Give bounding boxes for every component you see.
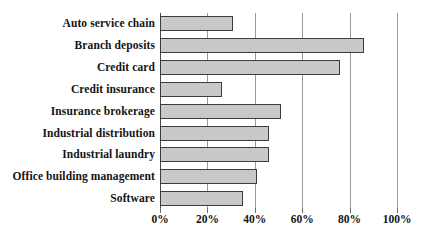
tick-label-80: 80%: [338, 213, 361, 225]
bar-branch-deposits: [160, 38, 364, 53]
bar-industrial-distribution: [160, 126, 269, 141]
category-label: Insurance brokerage: [0, 101, 155, 123]
bar-row: [160, 166, 397, 188]
bar-row: [160, 57, 397, 79]
bar-row: [160, 101, 397, 123]
tick-label-60: 60%: [291, 213, 314, 225]
bar-credit-insurance: [160, 82, 222, 97]
category-label: Branch deposits: [0, 35, 155, 57]
category-label: Credit insurance: [0, 79, 155, 101]
bar-row: [160, 35, 397, 57]
bar-row: [160, 79, 397, 101]
bar-industrial-laundry: [160, 147, 269, 162]
bar-insurance-brokerage: [160, 104, 281, 119]
bar-series: [160, 13, 397, 213]
bar-row: [160, 123, 397, 145]
bar-chart: Auto service chain Branch deposits Credi…: [0, 0, 425, 242]
tick-label-0: 0%: [151, 213, 168, 225]
category-label: Industrial distribution: [0, 123, 155, 145]
category-label: Software: [0, 188, 155, 210]
value-axis: 0% 20% 40% 60% 80% 100%: [160, 213, 397, 231]
bar-software: [160, 191, 243, 206]
tick-label-100: 100%: [383, 213, 412, 225]
tick-label-40: 40%: [243, 213, 266, 225]
plot-area: [160, 13, 397, 213]
bar-office-building-management: [160, 169, 257, 184]
tick-label-20: 20%: [196, 213, 219, 225]
gridline-100: [397, 13, 398, 213]
bar-row: [160, 188, 397, 210]
category-label: Auto service chain: [0, 13, 155, 35]
bar-credit-card: [160, 60, 340, 75]
category-label: Industrial laundry: [0, 144, 155, 166]
category-label: Office building management: [0, 166, 155, 188]
bar-row: [160, 13, 397, 35]
category-axis: Auto service chain Branch deposits Credi…: [0, 13, 155, 213]
bar-auto-service-chain: [160, 16, 233, 31]
bar-row: [160, 144, 397, 166]
category-label: Credit card: [0, 57, 155, 79]
